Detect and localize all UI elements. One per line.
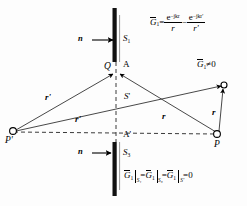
equation-boundary-conditions-bottom: G1S₁=G1S₃=G1S'=0 [124,171,193,181]
point-marker-field-point [221,82,227,88]
label-green-nonzero: G1≠0 [197,60,216,70]
ray-p-to-image-point [219,89,223,131]
label-normal-top: n [78,34,83,43]
eq-bottom-term3-g: G [167,171,174,180]
eq-bottom-term2: G1S₃ [145,171,161,181]
eq-bottom-term1-g: G [124,171,131,180]
screen-top-group [113,8,120,62]
label-green-nonzero-relation: ≠0 [206,59,215,69]
equation-green-function-top: G1=e−jkrr−e−jkr'r' [150,12,205,34]
label-point-a-prime: A' [123,130,131,139]
eq-bottom-term3-restriction-label: S' [180,178,184,183]
eq-top-term1-exponent: −jkr [170,13,179,19]
eq-top-term2-denominator: r' [187,23,205,33]
point-marker-p [214,131,221,138]
screen-top-bar [113,8,117,62]
ray-pprime-to-q [16,74,113,130]
eq-bottom-term3-restriction-bar [178,170,179,184]
label-vector-r: r [162,112,166,121]
eq-bottom-term3-subscript: 1 [173,175,176,181]
label-point-q: Q [104,62,111,72]
optical-axis-dashed-line [14,132,215,134]
label-screen-top: S1 [123,34,130,44]
eq-bottom-term3: G1S' [167,171,183,181]
eq-bottom-term1-restriction-label: S₁ [137,178,142,183]
label-point-a: A [123,60,130,69]
label-vector-r-prime-upper: r' [45,93,51,102]
label-point-p: P [214,140,220,150]
eq-top-term2-numerator: e−jkr' [187,12,205,23]
label-aperture-plane-prime: ' [129,91,131,101]
eq-top-term1-numerator: e−jkr [164,12,181,23]
label-screen-top-subscript: 1 [128,38,131,44]
label-screen-bottom: S3 [123,148,130,158]
label-point-p-prime: P' [5,136,13,146]
label-green-nonzero-letter: G [197,60,204,69]
ray-p-to-q [120,74,216,132]
eq-top-term2-fraction: e−jkr'r' [187,12,205,34]
eq-bottom-term2-restriction-label: S₃ [158,178,163,183]
screen-bottom-bar [113,142,117,196]
eq-top-lhs: G [150,18,157,27]
eq-top-term2-exponent: −jkr' [193,13,203,19]
eq-bottom-zero: 0 [188,170,193,180]
label-vector-r-prime-lower: r' [75,115,81,124]
label-aperture-plane: S' [124,92,130,101]
label-vector-r-right: r [212,108,216,117]
screen-bottom-group [113,142,120,196]
eq-bottom-term2-subscript: 1 [152,175,155,181]
eq-bottom-term1: G1S₁ [124,171,140,181]
eq-top-term1-denominator: r [164,23,181,33]
diffraction-geometry-figure: n n S1 S3 Q A A' S' P' P r' r' r r G1≠0 … [0,0,247,206]
label-normal-bottom: n [78,147,83,156]
point-marker-p-prime [10,128,17,135]
eq-bottom-term2-g: G [145,171,152,180]
label-screen-bottom-subscript: 3 [128,152,131,158]
eq-top-term1-fraction: e−jkrr [164,12,181,34]
